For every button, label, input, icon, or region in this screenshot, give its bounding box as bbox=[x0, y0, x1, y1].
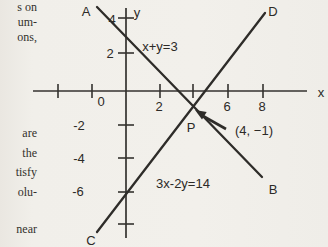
graph-svg: xy026842-2-4-6x+y=3AB3x-2y=14CDP(4, −1) bbox=[0, 0, 328, 247]
origin-label: 0 bbox=[97, 94, 104, 109]
y-tick-label: -2 bbox=[73, 118, 85, 133]
x-tick-label: 8 bbox=[258, 99, 265, 114]
scanned-textbook-page: s onum-ons,arethetisfyolu-near xy026842-… bbox=[0, 0, 328, 247]
x-tick-label: 6 bbox=[223, 99, 230, 114]
endpoint-label-D: D bbox=[268, 4, 277, 19]
y-tick-label: -4 bbox=[73, 151, 85, 166]
y-tick-label: 2 bbox=[106, 46, 113, 61]
x-tick-label: 2 bbox=[155, 99, 162, 114]
endpoint-label-A: A bbox=[82, 4, 91, 19]
y-tick-label: -6 bbox=[72, 184, 84, 199]
y-axis-label: y bbox=[134, 5, 141, 20]
line-AB bbox=[97, 7, 262, 177]
endpoint-label-C: C bbox=[86, 233, 95, 247]
intersection-coordinates-label: (4, −1) bbox=[235, 123, 273, 138]
equation-label-CD: 3x-2y=14 bbox=[156, 176, 210, 191]
endpoint-label-B: B bbox=[269, 182, 278, 197]
equation-label-AB: x+y=3 bbox=[142, 39, 177, 54]
intersection-point-label: P bbox=[187, 120, 196, 135]
x-axis-label: x bbox=[318, 85, 325, 100]
